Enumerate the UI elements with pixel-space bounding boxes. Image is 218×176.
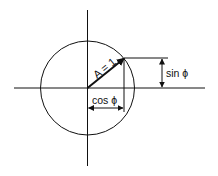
cos-label: cos ϕ xyxy=(92,94,117,106)
sin-label: sin ϕ xyxy=(166,67,188,79)
unit-circle-diagram: A = 1 sin ϕ cos ϕ xyxy=(0,0,218,176)
diagram-canvas: A = 1 sin ϕ cos ϕ xyxy=(0,0,218,176)
